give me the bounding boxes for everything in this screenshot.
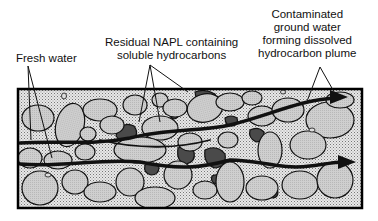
aquifer-cross-section (0, 0, 378, 221)
